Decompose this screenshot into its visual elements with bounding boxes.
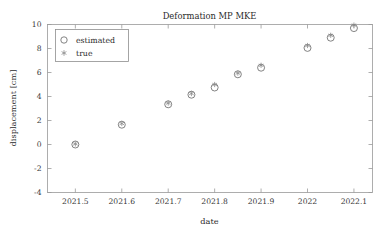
y-tick-label: 4 xyxy=(37,92,42,101)
legend-label: true xyxy=(76,49,93,58)
y-tick-label: 6 xyxy=(37,68,42,77)
y-tick-label: 2 xyxy=(37,116,42,125)
x-tick-label: 2021.7 xyxy=(155,197,182,206)
legend: estimatedtrue xyxy=(56,30,129,62)
scatter-plot: Deformation MP MKE displacement [cm] dat… xyxy=(0,0,387,232)
x-tick-label: 2021.5 xyxy=(62,197,89,206)
x-tick-label: 2021.8 xyxy=(201,197,228,206)
y-tick-label: 8 xyxy=(37,44,42,53)
y-tick-label: -2 xyxy=(34,164,42,173)
x-tick-label: 2022 xyxy=(298,197,317,206)
x-tick-label: 2021.6 xyxy=(108,197,135,206)
chart-figure: Deformation MP MKE displacement [cm] dat… xyxy=(0,0,387,232)
y-tick-label: 0 xyxy=(37,140,42,149)
y-axis-label: displacement [cm] xyxy=(8,70,18,147)
x-axis-label: date xyxy=(200,216,218,226)
chart-title: Deformation MP MKE xyxy=(163,11,257,21)
y-tick-label: 10 xyxy=(32,20,42,29)
x-tick-label: 2022.1 xyxy=(341,197,368,206)
x-tick-label: 2021.9 xyxy=(248,197,275,206)
y-tick-label: -4 xyxy=(34,188,42,197)
legend-label: estimated xyxy=(76,36,115,45)
